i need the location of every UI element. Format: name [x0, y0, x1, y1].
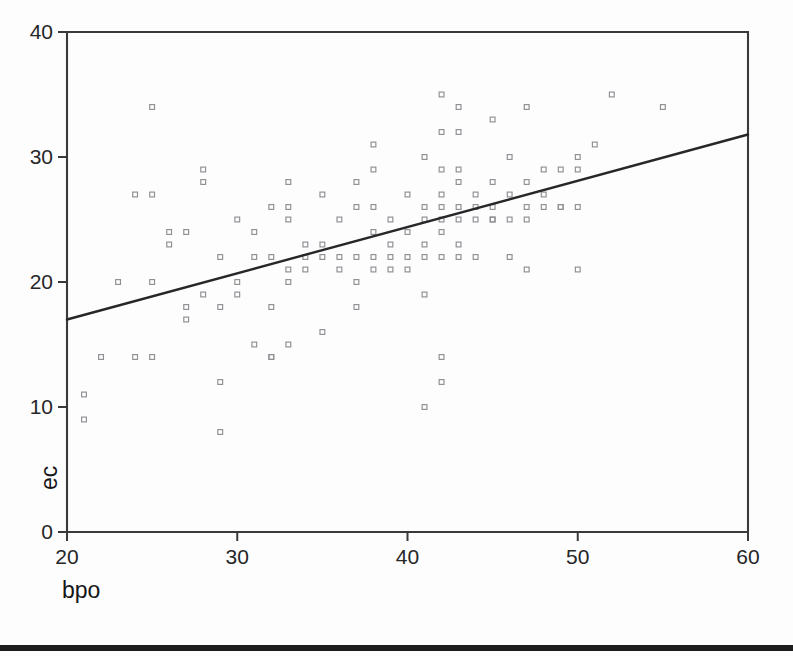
scatter-point [609, 92, 614, 97]
scatter-point [592, 142, 597, 147]
y-tick-label: 10 [30, 395, 53, 418]
x-axis-ticks: 2030405060 [55, 532, 759, 568]
scatter-point [218, 430, 223, 435]
scatter-point [235, 217, 240, 222]
scatter-point [456, 167, 461, 172]
plot-canvas: 2030405060 010203040 bpo ec [0, 0, 793, 656]
scatter-point [184, 317, 189, 322]
scatter-point [507, 217, 512, 222]
scatter-point [439, 205, 444, 210]
x-tick-label: 40 [396, 545, 419, 568]
regression-line [67, 135, 748, 320]
x-tick-label: 30 [226, 545, 249, 568]
scatter-point [320, 242, 325, 247]
y-tick-label: 40 [30, 20, 53, 43]
scatter-point [524, 180, 529, 185]
scatter-point [524, 205, 529, 210]
scatter-point [150, 280, 155, 285]
scatter-point [252, 342, 257, 347]
scatter-point [303, 267, 308, 272]
scatter-point [303, 242, 308, 247]
scatter-point [269, 355, 274, 360]
scatter-point [286, 205, 291, 210]
scatter-point [354, 280, 359, 285]
scatter-point [286, 342, 291, 347]
scatter-point [150, 105, 155, 110]
y-axis-title: ec [36, 466, 62, 490]
scatter-point [133, 192, 138, 197]
scatter-point [388, 242, 393, 247]
scatter-point [558, 205, 563, 210]
scatter-point [422, 255, 427, 260]
scatter-point [524, 217, 529, 222]
scatter-point [405, 230, 410, 235]
scatter-point [371, 267, 376, 272]
scatter-point [286, 267, 291, 272]
scatter-point [490, 117, 495, 122]
x-axis-title: bpo [62, 577, 100, 603]
scatter-point [439, 230, 444, 235]
scatter-point [320, 192, 325, 197]
scatter-point [150, 192, 155, 197]
scatter-point [456, 105, 461, 110]
scatter-point [184, 230, 189, 235]
scatter-point [388, 267, 393, 272]
scatter-point [456, 130, 461, 135]
scatter-point [439, 130, 444, 135]
scatter-point [524, 267, 529, 272]
scatter-point [490, 180, 495, 185]
scatter-point [201, 180, 206, 185]
scatter-point [252, 255, 257, 260]
scatter-point [99, 355, 104, 360]
scatter-point [524, 105, 529, 110]
x-tick-label: 60 [736, 545, 759, 568]
y-tick-label: 30 [30, 145, 53, 168]
plot-frame [67, 32, 748, 532]
scatter-point [286, 180, 291, 185]
scatter-point [337, 255, 342, 260]
scatter-point [354, 255, 359, 260]
y-axis-ticks: 010203040 [30, 20, 67, 543]
scatter-point [507, 192, 512, 197]
scatter-point [218, 380, 223, 385]
scatter-point [575, 167, 580, 172]
scatter-point [218, 305, 223, 310]
scatter-point [337, 267, 342, 272]
scatter-point [541, 192, 546, 197]
scatter-point [167, 242, 172, 247]
scatter-point [558, 167, 563, 172]
scatter-point [82, 392, 87, 397]
scatter-point [235, 292, 240, 297]
scatter-point [150, 355, 155, 360]
scatter-point [422, 292, 427, 297]
scatter-point [405, 267, 410, 272]
scatter-point [167, 230, 172, 235]
scatter-point [439, 192, 444, 197]
scatter-point [660, 105, 665, 110]
footer-divider-bar [0, 645, 793, 651]
scatter-point [286, 280, 291, 285]
scatter-point [201, 292, 206, 297]
scatter-point [507, 155, 512, 160]
scatter-point [473, 192, 478, 197]
scatter-point [575, 205, 580, 210]
scatter-point [439, 167, 444, 172]
scatter-point [354, 180, 359, 185]
scatter-point [337, 217, 342, 222]
scatter-point [422, 205, 427, 210]
scatter-point [405, 255, 410, 260]
scatter-point [269, 205, 274, 210]
scatter-point [371, 142, 376, 147]
scatter-point [456, 217, 461, 222]
scatter-point [184, 305, 189, 310]
scatter-point [575, 155, 580, 160]
scatter-point [371, 230, 376, 235]
scatter-point [133, 355, 138, 360]
scatter-point [439, 92, 444, 97]
scatter-point [252, 230, 257, 235]
scatter-point [490, 217, 495, 222]
scatter-point [320, 330, 325, 335]
scatter-point [116, 280, 121, 285]
scatter-point [456, 255, 461, 260]
scatter-point [320, 255, 325, 260]
